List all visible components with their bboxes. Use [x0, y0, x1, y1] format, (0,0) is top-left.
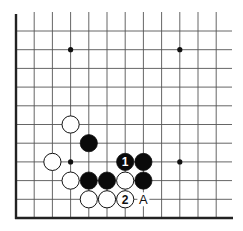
black-stone: [80, 172, 97, 189]
white-stone: [44, 153, 61, 170]
star-point-icon: [177, 159, 182, 164]
go-board: 12 A: [0, 0, 243, 231]
point-labels: A: [137, 192, 149, 207]
black-stone: 1: [117, 153, 134, 170]
white-stone: [62, 172, 79, 189]
star-point-icon: [177, 47, 182, 52]
move-number: 2: [122, 193, 129, 207]
star-point-icon: [68, 47, 73, 52]
white-stone: 2: [117, 191, 134, 208]
white-stone: [117, 172, 134, 189]
black-stone: [80, 135, 97, 152]
black-stone: [98, 172, 115, 189]
point-label: A: [139, 192, 148, 207]
black-stone: [135, 172, 152, 189]
black-stone: [135, 153, 152, 170]
star-point-icon: [68, 159, 73, 164]
white-stone: [98, 191, 115, 208]
white-stone: [80, 191, 97, 208]
move-number: 1: [122, 155, 129, 169]
white-stone: [62, 116, 79, 133]
